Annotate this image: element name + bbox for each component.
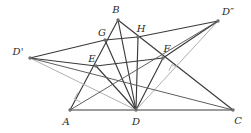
segments-layer — [30, 20, 233, 110]
vertex-point-d1 — [28, 56, 31, 59]
vertex-label-f: F — [164, 44, 171, 54]
cevian-DE — [96, 66, 136, 110]
vertex-point-b — [116, 18, 119, 21]
side-AB — [70, 20, 118, 110]
right-angle-marks-layer — [75, 65, 179, 103]
vertex-label-a: A — [62, 117, 69, 127]
line-E-F — [96, 58, 163, 66]
altitude-BD — [118, 20, 136, 110]
vertex-point-c — [231, 108, 234, 111]
side-BC — [118, 20, 233, 110]
vertex-point-a — [68, 108, 71, 111]
vertex-label-g: G — [98, 28, 106, 38]
vertex-label-e: E — [88, 54, 95, 64]
line-D1-C — [30, 58, 233, 110]
right-angle-at-AB-foot — [75, 93, 84, 102]
vertex-label-h: H — [137, 24, 146, 34]
vertex-label-d2: D″ — [222, 7, 234, 17]
cevian-DG — [105, 40, 136, 110]
cevian-DF — [136, 58, 163, 110]
vertex-label-d: D — [132, 117, 140, 127]
vertex-point-d2 — [216, 19, 219, 22]
vertex-point-e — [94, 64, 97, 67]
vertex-point-g — [103, 38, 106, 41]
vertex-label-b: B — [112, 5, 119, 15]
vertex-label-c: C — [234, 116, 242, 126]
geometry-figure: ABCDEFGHD'D″ — [0, 0, 251, 133]
vertex-point-h — [136, 35, 139, 38]
vertex-point-d — [134, 108, 137, 111]
line-D1-E — [30, 58, 96, 66]
reflection-DD2 — [136, 21, 218, 110]
vertex-point-f — [161, 56, 164, 59]
vertex-label-d1: D' — [13, 47, 24, 57]
cevian-DH — [136, 37, 138, 110]
geometry-canvas — [0, 0, 251, 133]
